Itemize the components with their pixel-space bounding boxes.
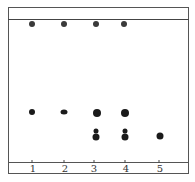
spot-lane-5-lower (157, 133, 164, 140)
spot-lane-4-middle (121, 109, 129, 117)
solvent-front-line (8, 19, 189, 20)
spot-lane-1-middle (29, 109, 35, 115)
lane-label-5: 5 (157, 163, 163, 175)
spot-lane-4-lower-large (122, 134, 129, 141)
lane-label-3: 3 (91, 163, 97, 175)
lane-label-2: 2 (62, 163, 68, 175)
spot-lane-2-middle (61, 110, 68, 115)
spot-lane-3-top (93, 21, 99, 27)
spot-lane-1-top (29, 21, 35, 27)
spot-lane-4-top (121, 21, 127, 27)
lane-label-1: 1 (30, 163, 36, 175)
lane-label-4: 4 (123, 163, 129, 175)
spot-lane-2-top (61, 21, 67, 27)
tlc-plate (8, 7, 189, 174)
spot-lane-3-lower-large (93, 134, 100, 141)
spot-lane-3-middle (93, 109, 101, 117)
